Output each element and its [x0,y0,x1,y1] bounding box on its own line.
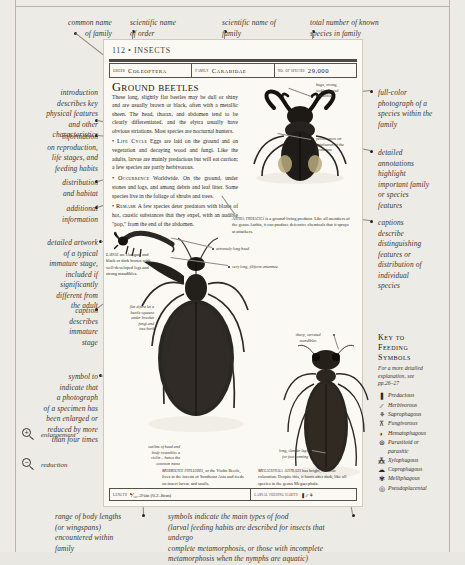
reduction-symbol-row: − reduction [22,458,68,471]
guide-top-rule [15,6,450,7]
section-heading: Occurrence [118,174,149,181]
page-top-rule [109,59,357,62]
herbivorous-icon: ⁄⁄ [378,401,385,410]
family-value: Carabidae [212,67,247,74]
annotation-scientific-family: scientific name of family [222,18,308,39]
annotation-dot-detailed [370,150,373,153]
key-item-hematophagous: ◗ Hematophagous [378,429,463,438]
key-item-coprophagous: ☁ Coprophagous [378,465,463,474]
header-cell-species-count: No. of species 29,000 [275,64,356,77]
melliphagous-icon: ✾ [378,474,385,483]
header-cell-family: Family Carabidae [192,64,274,77]
annotation-detailed-annotations: detailed annotations highlight important… [378,148,460,211]
family-label: Family [195,69,208,73]
key-item-label: Xylophagous [388,456,418,465]
annotation-artwork: detailed artwork of a typical immature s… [14,238,98,312]
annotation-caption-immature: caption describes immature stage [18,306,98,348]
section-heading: Remark [116,202,136,209]
species-count-label: No. of species [278,69,305,73]
footer-data-row: Length ⅟₁₆–3⅛in (0.2–8cm) Larval feeding… [109,488,357,501]
page-folio: 112 • INSECTS [112,46,171,55]
caption-anthia: Anthia thoracica is a ground-living pred… [232,216,350,235]
key-to-feeding-symbols: Key to Feeding Symbols For a more detail… [378,333,463,493]
key-item-list: ❚ Predacious ⁄⁄ Herbivorous ⚘ Saprophago… [378,391,463,493]
annotation-dot-body-lengths [142,514,145,517]
label-extremely-long-head: extremely long head [216,246,268,252]
annotation-food-symbols: symbols indicate the main types of food … [168,512,350,565]
key-item-label: Herbivorous [388,401,417,410]
species-count-value: 29,000 [308,67,329,74]
key-item-herbivorous: ⁄⁄ Herbivorous [378,401,463,410]
label-dot-antennae [228,266,230,268]
annotation-dot-photograph [370,90,373,93]
enlargement-symbol-row: + enlargement [22,428,76,441]
annotation-body-lengths: range of body lengths (or wingspans) enc… [55,512,141,554]
order-value: Coleoptera [128,67,167,74]
key-item-label: Predacious [388,391,414,400]
key-item-label: Saprophagous [388,410,421,419]
parasitoid-icon: ⊛ [378,438,385,447]
reduction-label: reduction [41,461,68,469]
caption-species-name: Anthia thoracica [232,216,264,221]
label-dot-yellow-spots [311,139,313,141]
key-title: Key to Feeding Symbols [378,333,463,363]
section-heading: Life Cycle [117,137,147,144]
fungivorous-icon: ⊼ [378,419,385,428]
caption-species-name: Megacephala australis [258,468,301,473]
reduction-icon: − [22,458,35,471]
section-occurrence: • Occurrence Worldwide. On the ground, u… [112,173,238,200]
key-item-label: Parasitoid or parasitic [388,438,419,455]
length-value: ⅟₁₆–3⅛in (0.2–8cm) [130,492,171,498]
key-item-predacious: ❚ Predacious [378,391,463,400]
label-slender-legs: long, slender legs for fast running [258,448,308,459]
coprophagous-icon: ☁ [378,465,385,474]
key-subtitle: For a more detailed explanation, see pp.… [378,365,463,388]
section-life-cycle: • Life Cycle Eggs are laid on the ground… [112,136,238,171]
feeding-habit-icons: ❚ ⁄⁄ ⚘ [301,492,313,498]
enlargement-icon: + [22,428,35,441]
intro-paragraph: These long, slightly flat beetles may be… [112,93,238,135]
annotation-dot-food-symbols [352,514,355,517]
length-label: Length [113,493,127,497]
annotation-distribution: distribution and habitat [18,178,98,199]
xylophagous-icon: ⁂ [378,456,385,465]
annotation-dot-captions [370,220,373,223]
footer-cell-length: Length ⅟₁₆–3⅛in (0.2–8cm) [110,489,251,500]
key-item-label: Hematophagous [388,429,426,438]
key-item-label: Melliphagous [388,474,420,483]
annotation-captions-describe: captions describe distinguishing feature… [378,218,460,292]
key-item-label: Fungivorous [388,419,417,428]
key-item-xylophagous: ⁂ Xylophagous [378,456,463,465]
label-dot-mandibles [311,96,313,98]
predacious-icon: ❚ [378,391,385,400]
pseudoplacental-icon: ◎ [378,484,385,493]
key-item-label: Coprophagous [388,465,422,474]
label-antennae: very long, filiform antennae [232,264,294,270]
saprophagous-icon: ⚘ [378,410,385,419]
hematophagous-icon: ◗ [378,429,385,438]
order-label: Order [113,69,125,73]
annotation-photograph: full-color photograph of a species withi… [378,88,460,130]
article-body: These long, slightly flat beetles may be… [112,93,238,230]
label-yellow-spots: yellow spots on epipleuron of the pronot… [316,136,360,153]
footer-cell-feeding-habits: Larval feeding habits ❚ ⁄⁄ ⚘ [251,489,356,500]
caption-mormolyce: Mormolyce phyllodes, or the Violin Beetl… [162,468,248,487]
key-item-melliphagous: ✾ Melliphagous [378,474,463,483]
label-violin-body: outline of head and body resembles a vio… [124,444,180,466]
key-item-fungivorous: ⊼ Fungivorous [378,419,463,428]
key-item-pseudoplacental: ◎ Pseudoplacental [378,484,463,493]
header-cell-order: Order Coleoptera [110,64,192,77]
label-mandibles: huge, strong, sickle-shaped mandibles [316,82,358,99]
larval-feeding-habits-label: Larval feeding habits [254,493,298,497]
book-page: 112 • INSECTS Order Coleoptera Family Ca… [104,40,362,506]
key-item-label: Pseudoplacental [388,484,427,493]
annotation-reproduction: information on reproduction, life stages… [18,132,98,174]
enlargement-label: enlargement [41,431,76,439]
annotation-common-name: common name of family [34,18,112,39]
taxonomy-header-row: Order Coleoptera Family Carabidae No. of… [109,63,357,78]
annotation-scientific-order: scientific name of order [130,18,210,39]
caption-species-name: Mormolyce phyllodes [162,468,203,473]
key-item-parasitoid: ⊛ Parasitoid or parasitic [378,438,463,455]
caption-species-name: Larvae [106,252,119,257]
